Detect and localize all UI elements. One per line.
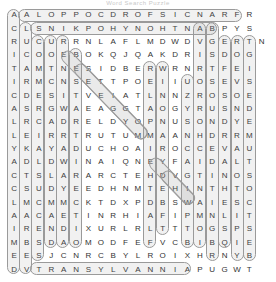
highlight-column-18 bbox=[218, 35, 231, 248]
highlight-column-15 bbox=[181, 74, 194, 248]
highlight-critically-acclaimed bbox=[7, 9, 20, 274]
highlight-column-13 bbox=[156, 61, 169, 235]
highlight-column-4 bbox=[44, 35, 57, 248]
page-title: Word Search Puzzle bbox=[0, 0, 276, 7]
highlight-column-5 bbox=[56, 35, 69, 248]
highlight-column-12 bbox=[143, 61, 156, 248]
highlight-diagonal-2 bbox=[72, 61, 151, 142]
highlight-transylvannia bbox=[30, 262, 191, 275]
highlight-column-17 bbox=[206, 22, 219, 261]
found-word-highlights bbox=[8, 8, 268, 276]
highlight-column-6 bbox=[69, 48, 82, 248]
highlight-anthony-hopkins bbox=[30, 22, 217, 35]
highlight-diagonal-1 bbox=[59, 48, 150, 142]
highlight-column-20 bbox=[243, 35, 256, 261]
highlight-column-3 bbox=[31, 35, 44, 261]
highlight-column-16 bbox=[193, 22, 206, 248]
highlight-diagonal-4 bbox=[159, 168, 198, 207]
highlight-diagonal-3 bbox=[147, 155, 198, 207]
word-search-puzzle: Word Search Puzzle AALOPPOCDROFSICNARFRC… bbox=[0, 0, 276, 282]
highlight-column-19 bbox=[231, 35, 244, 261]
highlight-francis-ford-coppola bbox=[18, 9, 242, 22]
highlight-column-2 bbox=[19, 22, 32, 274]
letter-grid-container: AALOPPOCDROFSICNARFRCLSNIKPOHYNOHTNABPYS… bbox=[8, 8, 268, 276]
